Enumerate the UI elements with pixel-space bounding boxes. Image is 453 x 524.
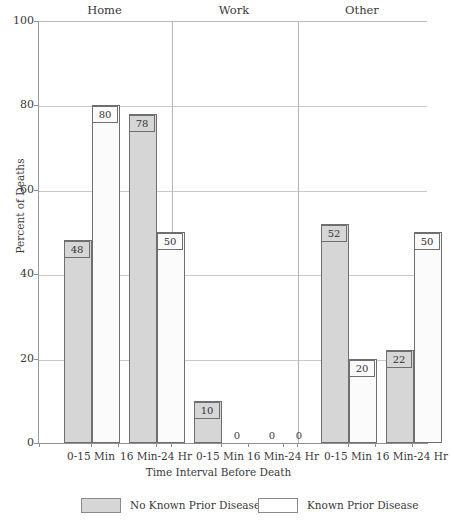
x-axis-baseline [38, 443, 428, 444]
y-tick-label-20: 20 [2, 352, 34, 365]
bar-value-label: 80 [92, 106, 118, 123]
x-tick-mark [171, 443, 172, 447]
legend-label: No Known Prior Disease [130, 499, 260, 511]
legend-entry-no-known-prior-disease: No Known Prior Disease [81, 496, 260, 514]
group-separator-2 [298, 22, 299, 443]
bar-value-label: 20 [349, 360, 375, 377]
bar-value-label-work-16min-24hr-known: 0 [288, 430, 310, 441]
plot-area: 48 80 78 50 10 0 0 0 52 20 22 50 [38, 21, 427, 443]
bar-home-0-15min-no-known: 48 [64, 240, 92, 443]
x-tick-mark [91, 443, 92, 447]
x-tick-mark [283, 443, 284, 447]
x-tick-mark [412, 443, 413, 447]
y-tick-label-80: 80 [2, 98, 34, 111]
x-tick-label-other-16min-24hr: 16 Min-24 Hr [362, 450, 453, 462]
legend-entry-known-prior-disease: Known Prior Disease [258, 496, 418, 514]
x-tick-mark [248, 443, 249, 447]
bar-value-label: 10 [194, 402, 220, 419]
bar-home-16min-24hr-no-known: 78 [129, 114, 157, 443]
bar-other-16min-24hr-known: 50 [414, 232, 442, 443]
bar-work-0-15min-no-known: 10 [194, 401, 222, 443]
legend: No Known Prior Disease Known Prior Disea… [0, 496, 437, 516]
x-tick-mark [118, 443, 119, 447]
x-tick-mark [156, 443, 157, 447]
bar-value-label: 78 [129, 115, 155, 132]
y-tick-label-100: 100 [2, 14, 34, 27]
bar-value-label: 50 [414, 233, 440, 250]
bar-value-label: 50 [157, 233, 183, 250]
x-tick-mark [221, 443, 222, 447]
bar-value-label: 22 [386, 351, 412, 368]
group-header-work: Work [171, 2, 297, 18]
x-tick-mark [375, 443, 376, 447]
group-header-other: Other [297, 2, 427, 18]
x-axis-title: Time Interval Before Death [0, 466, 437, 478]
bar-home-16min-24hr-known: 50 [157, 232, 185, 443]
y-tick-label-0: 0 [2, 436, 34, 449]
legend-label: Known Prior Disease [307, 499, 418, 511]
bar-value-label: 48 [64, 241, 90, 258]
y-axis-title: Percent of Deaths [14, 126, 26, 286]
legend-swatch-gray-icon [81, 498, 121, 513]
legend-swatch-white-icon [258, 498, 298, 513]
x-tick-mark [348, 443, 349, 447]
x-tick-mark [39, 443, 40, 447]
bar-value-label-work-16min-24hr-no-known: 0 [261, 430, 283, 441]
group-header-home: Home [38, 2, 171, 18]
bar-home-0-15min-known: 80 [92, 105, 120, 443]
x-tick-mark [297, 443, 298, 447]
bar-other-16min-24hr-no-known: 22 [386, 350, 414, 443]
bar-other-0-15min-known: 20 [349, 359, 377, 443]
bar-other-0-15min-no-known: 52 [321, 224, 349, 443]
bar-value-label-work-0-15min-known: 0 [226, 430, 248, 441]
bar-value-label: 52 [321, 225, 347, 242]
